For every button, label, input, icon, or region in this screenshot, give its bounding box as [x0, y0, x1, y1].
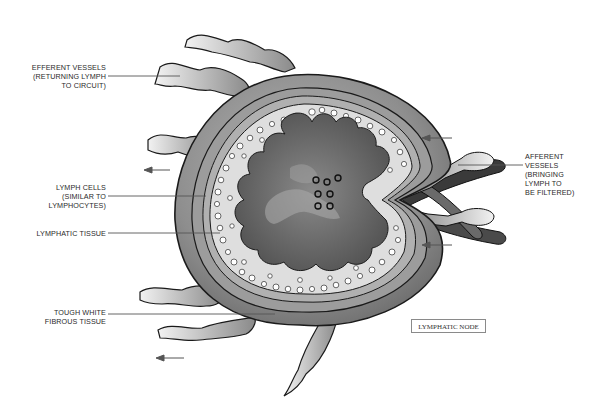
label-afferent-vessels: AFFERENT VESSELS (BRINGING LYMPH TO BE F… [525, 152, 603, 197]
arrow-left-icon [156, 355, 184, 361]
arrow-left-icon [144, 167, 170, 173]
label-lymph-cells: LYMPH CELLS (SIMILAR TO LYMPHOCYTES) [20, 183, 106, 210]
diagram-title: LYMPHATIC NODE [411, 319, 486, 333]
label-efferent-vessels: EFFERENT VESSELS (RETURNING LYMPH TO CIR… [20, 63, 106, 90]
label-lymphatic-tissue: LYMPHATIC TISSUE [10, 229, 106, 238]
label-fibrous-tissue: TOUGH WHITE FIBROUS TISSUE [20, 308, 106, 326]
